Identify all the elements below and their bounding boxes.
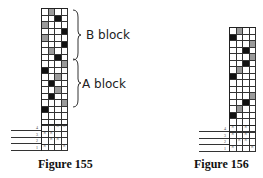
treadle-number: 4 bbox=[224, 126, 226, 131]
figure-156: 4321 Figure 156 bbox=[132, 0, 263, 178]
tie-mark bbox=[250, 146, 257, 153]
treadle-line bbox=[11, 150, 41, 151]
tie-up-row bbox=[230, 146, 256, 153]
treadle-number: 3 bbox=[224, 133, 226, 138]
tie-up-row bbox=[42, 145, 68, 152]
brace-b-block bbox=[72, 9, 82, 61]
treadle-number: 1 bbox=[224, 146, 226, 151]
draft-grid bbox=[229, 27, 256, 132]
treadle-number: 3 bbox=[36, 132, 38, 137]
b-block-label: B block bbox=[86, 28, 130, 42]
figure-155: 4321 B block A block Figure 155 bbox=[0, 0, 132, 178]
tie-mark bbox=[62, 145, 69, 152]
treadle-line bbox=[199, 151, 229, 152]
treadle-number: 1 bbox=[36, 145, 38, 150]
figure-caption: Figure 156 bbox=[194, 157, 249, 172]
brace-a-block bbox=[72, 58, 82, 108]
treadle-number: 2 bbox=[36, 138, 38, 143]
draft-grid bbox=[41, 8, 68, 126]
treadle-number: 4 bbox=[36, 125, 38, 130]
tie-up bbox=[41, 124, 68, 151]
figure-caption: Figure 155 bbox=[38, 157, 93, 172]
tie-up bbox=[229, 125, 256, 152]
treadle-number: 2 bbox=[224, 139, 226, 144]
a-block-label: A block bbox=[82, 77, 126, 91]
